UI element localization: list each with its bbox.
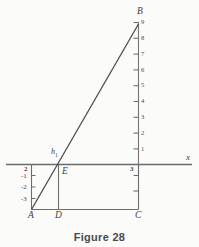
y-tick-label-6: 6 bbox=[141, 67, 144, 74]
h1-subscript: 1 bbox=[55, 152, 58, 158]
line-segment-AB bbox=[32, 24, 139, 210]
y-tick-label-9: 9 bbox=[141, 19, 144, 26]
point-label-D: D bbox=[55, 211, 62, 221]
y-tick-label-7: 7 bbox=[141, 51, 144, 58]
below-axis-label-neg1: -1 bbox=[21, 173, 27, 180]
y-tick-label-1: 1 bbox=[141, 146, 144, 153]
below-axis-label-3: 3 bbox=[130, 166, 134, 173]
below-axis-label-neg3: -3 bbox=[21, 196, 27, 203]
below-axis-label-neg2: -2 bbox=[21, 184, 27, 191]
y-tick-label-8: 8 bbox=[141, 35, 144, 42]
y-tick-label-2: 2 bbox=[141, 130, 144, 137]
height-label-h1: h1 bbox=[51, 148, 58, 158]
y-axis-negative-ticks bbox=[134, 176, 139, 192]
left-negative-ticks bbox=[32, 176, 36, 199]
figure-28-diagram: B A D C E h1 x 9 8 7 6 5 4 3 2 1 2 -1 -2… bbox=[0, 0, 199, 247]
point-label-C: C bbox=[135, 211, 141, 221]
point-label-B: B bbox=[137, 7, 143, 17]
point-label-E: E bbox=[62, 167, 68, 177]
y-tick-label-4: 4 bbox=[141, 98, 144, 105]
x-axis-label: x bbox=[186, 153, 190, 162]
y-tick-label-5: 5 bbox=[141, 82, 144, 89]
y-tick-label-3: 3 bbox=[141, 114, 144, 121]
y-axis-ticks bbox=[134, 23, 139, 149]
point-label-A: A bbox=[28, 211, 34, 221]
figure-caption: Figure 28 bbox=[0, 231, 199, 243]
